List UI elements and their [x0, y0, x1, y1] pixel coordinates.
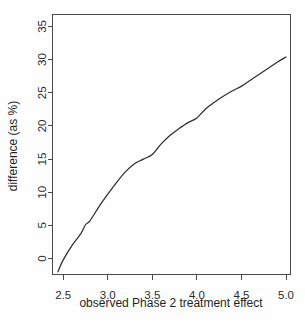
x-tick-label: 5.0 [278, 289, 294, 301]
x-tick-label: 2.5 [55, 289, 71, 301]
y-tick-label: 15 [37, 153, 49, 166]
curve-clip-group [58, 57, 286, 272]
y-axis-title: difference (as %) [6, 101, 20, 192]
y-tick-label: 0 [37, 255, 49, 261]
y-tick-label: 5 [37, 222, 49, 228]
y-tick-label: 20 [37, 120, 49, 133]
y-tick-label: 25 [37, 86, 49, 99]
y-axis-tick-labels: 05101520253035 [37, 20, 49, 262]
plot-canvas: 05101520253035 2.53.03.54.04.55.0 observ… [0, 0, 305, 323]
y-tick-label: 35 [37, 20, 49, 33]
x-axis-tick-marks [63, 275, 286, 280]
chart-figure: 05101520253035 2.53.03.54.04.55.0 observ… [0, 0, 305, 323]
plot-frame [53, 15, 291, 275]
y-tick-label: 10 [37, 186, 49, 199]
difference-curve [58, 57, 286, 272]
x-axis-title: observed Phase 2 treatment effect [79, 296, 263, 310]
y-tick-label: 30 [37, 53, 49, 66]
